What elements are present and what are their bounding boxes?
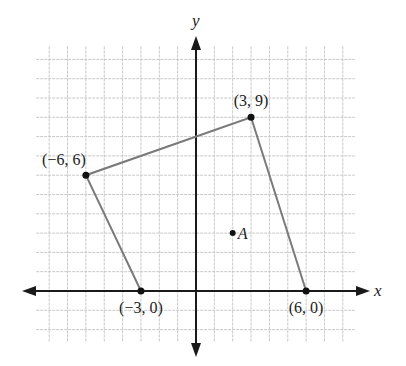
point-a xyxy=(230,230,236,236)
vertex-label: (−6, 6) xyxy=(42,151,86,169)
vertex-label: (6, 0) xyxy=(289,299,324,317)
x-axis-right-arrow-icon xyxy=(356,286,370,296)
y-axis-label: y xyxy=(190,11,200,30)
vertex-label: (−3, 0) xyxy=(119,299,163,317)
vertex-point xyxy=(303,288,310,295)
x-axis-label: x xyxy=(373,281,382,300)
coordinate-plane: (−3, 0)(−6, 6)(3, 9)(6, 0)Axy xyxy=(0,0,406,366)
y-axis-down-arrow-icon xyxy=(191,343,201,357)
vertex-point xyxy=(137,288,144,295)
y-axis-up-arrow-icon xyxy=(191,36,201,50)
labels: (−3, 0)(−6, 6)(3, 9)(6, 0)Axy xyxy=(42,11,382,317)
x-axis-left-arrow-icon xyxy=(22,286,36,296)
vertex-label: (3, 9) xyxy=(234,92,269,110)
vertex-point xyxy=(248,114,255,121)
point-label: A xyxy=(237,225,248,242)
vertex-point xyxy=(82,172,89,179)
